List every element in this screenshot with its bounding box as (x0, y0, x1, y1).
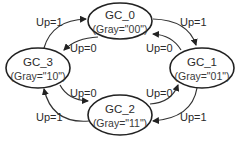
state-name: GC_0 (105, 9, 135, 21)
state-name: GC_2 (105, 103, 135, 115)
state-gc3: GC_3 (Gray="10") (6, 48, 70, 88)
state-code: (Gray="00") (92, 23, 147, 35)
transition-label: Up=1 (36, 111, 63, 123)
state-diagram: Up=1 Up=0 Up=1 Up=0 Up=0 Up=1 Up=0 Up=1 … (0, 0, 236, 142)
state-code: (Gray="11") (93, 117, 147, 129)
state-gc0: GC_0 (Gray="00") (88, 3, 152, 39)
state-name: GC_1 (187, 56, 217, 68)
transition-label: Up=1 (180, 111, 207, 123)
state-code: (Gray="01") (174, 70, 229, 82)
state-name: GC_3 (23, 56, 53, 68)
transition-label: Up=0 (146, 87, 173, 99)
state-gc2: GC_2 (Gray="11") (88, 95, 152, 135)
transition-label: Up=0 (146, 42, 173, 54)
state-gc1: GC_1 (Gray="01") (170, 48, 234, 88)
transition-label: Up=1 (36, 16, 63, 28)
transition-label: Up=0 (70, 87, 97, 99)
state-code: (Gray="10") (10, 70, 65, 82)
transition-label: Up=0 (70, 42, 97, 54)
transition-label: Up=1 (180, 16, 207, 28)
